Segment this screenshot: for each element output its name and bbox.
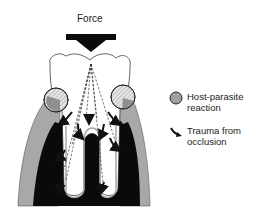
force-label: Force bbox=[77, 13, 103, 24]
legend-text-host-parasite: Host-parasite reaction bbox=[187, 91, 244, 113]
left-lesion-circle bbox=[44, 88, 68, 112]
legend-text-trauma: Trauma from occlusion bbox=[187, 125, 241, 147]
force-arrow bbox=[66, 34, 116, 52]
right-lesion-circle bbox=[111, 85, 135, 109]
curved-arrow-icon bbox=[169, 125, 183, 139]
gray-circle-icon bbox=[169, 91, 183, 105]
legend-trauma: Trauma from occlusion bbox=[169, 125, 241, 147]
legend-host-parasite: Host-parasite reaction bbox=[169, 91, 244, 113]
